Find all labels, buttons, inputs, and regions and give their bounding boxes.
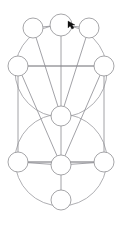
edge-lowercenter-lowerright	[71, 163, 94, 165]
diagram-canvas	[0, 0, 122, 225]
node-upper-right[interactable]	[94, 56, 114, 76]
node-lower-center[interactable]	[51, 155, 71, 175]
edge-lowerleft-lowercenter	[28, 163, 51, 165]
node-lower-left[interactable]	[8, 152, 28, 172]
node-top-left[interactable]	[23, 18, 43, 38]
node-top-right[interactable]	[79, 18, 99, 38]
node-bottom[interactable]	[51, 190, 71, 210]
node-center[interactable]	[51, 106, 71, 126]
edge-center-topleft	[36, 38, 58, 107]
tree-of-life-diagram	[0, 0, 122, 225]
node-lower-right[interactable]	[94, 152, 114, 172]
node-upper-left[interactable]	[8, 56, 28, 76]
edge-center-topright	[64, 38, 86, 107]
